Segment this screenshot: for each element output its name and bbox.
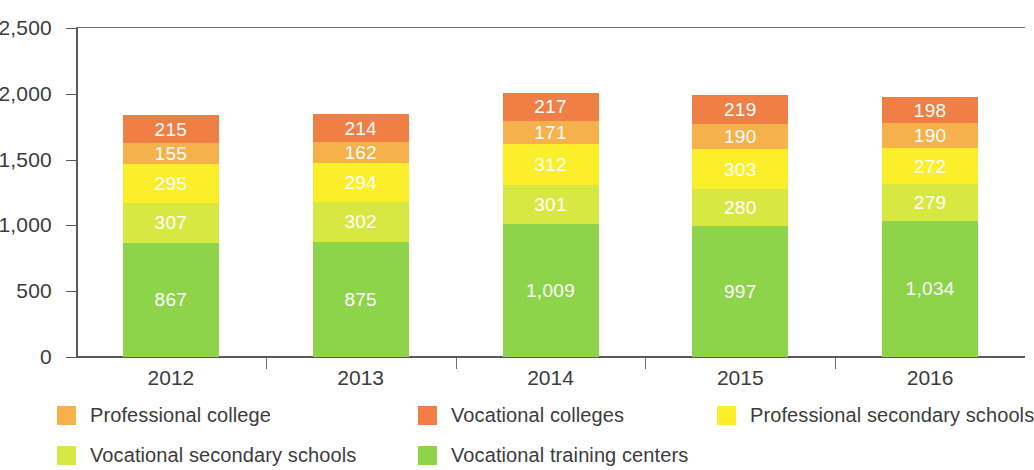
chart-legend: Professional collegeVocational collegesP… xyxy=(0,398,1025,470)
bar-group: 219190303280997 xyxy=(692,28,788,357)
y-axis-tick-mark xyxy=(66,357,76,358)
x-axis-label: 2016 xyxy=(907,366,954,390)
legend-color-swatch xyxy=(418,446,437,465)
legend-label: Professional college xyxy=(90,404,271,427)
bar-stack: 214162294302875 xyxy=(313,114,409,357)
legend-color-swatch xyxy=(57,406,76,425)
x-axis-tick-mark xyxy=(835,358,836,369)
y-axis-tick-mark xyxy=(66,291,76,292)
bar-segment[interactable]: 272 xyxy=(882,148,978,184)
legend-item[interactable]: Professional college xyxy=(57,404,271,427)
x-axis-tick-mark xyxy=(266,358,267,369)
bar-segment[interactable]: 867 xyxy=(123,243,219,357)
x-axis-label: 2013 xyxy=(337,366,384,390)
x-axis-label: 2014 xyxy=(527,366,574,390)
bar-segment[interactable]: 295 xyxy=(123,164,219,203)
legend-label: Professional secondary schools xyxy=(750,404,1034,427)
bar-segment[interactable]: 997 xyxy=(692,226,788,357)
legend-color-swatch xyxy=(418,406,437,425)
bar-segment[interactable]: 215 xyxy=(123,115,219,143)
bar-segment[interactable]: 875 xyxy=(313,242,409,357)
bar-group: 214162294302875 xyxy=(313,28,409,357)
legend-color-swatch xyxy=(57,446,76,465)
bar-stack: 2171713123011,009 xyxy=(503,93,599,357)
legend-item[interactable]: Vocational colleges xyxy=(418,404,624,427)
bar-segment[interactable]: 198 xyxy=(882,97,978,123)
bar-segment[interactable]: 302 xyxy=(313,202,409,242)
legend-label: Vocational secondary schools xyxy=(90,444,356,467)
legend-label: Vocational colleges xyxy=(451,404,624,427)
y-axis-tick-label: 500 xyxy=(16,279,52,303)
bar-segment[interactable]: 190 xyxy=(692,124,788,149)
legend-label: Vocational training centers xyxy=(451,444,688,467)
bar-segment[interactable]: 219 xyxy=(692,95,788,124)
bar-stack: 1981902722791,034 xyxy=(882,97,978,357)
y-axis-tick-mark xyxy=(66,28,76,29)
bar-group: 2171713123011,009 xyxy=(503,28,599,357)
y-axis-tick-label: 2,500 xyxy=(0,16,52,40)
x-axis-tick-mark xyxy=(456,358,457,369)
bar-segment[interactable]: 279 xyxy=(882,184,978,221)
bar-segment[interactable]: 214 xyxy=(313,114,409,142)
bar-segment[interactable]: 162 xyxy=(313,142,409,163)
legend-color-swatch xyxy=(717,406,736,425)
y-axis-tick-mark xyxy=(66,160,76,161)
y-axis-tick-label: 1,500 xyxy=(0,148,52,172)
bar-segment[interactable]: 155 xyxy=(123,143,219,163)
bar-segment[interactable]: 171 xyxy=(503,121,599,144)
legend-item[interactable]: Vocational secondary schools xyxy=(57,444,356,467)
bar-group: 1981902722791,034 xyxy=(882,28,978,357)
bar-stack: 219190303280997 xyxy=(692,95,788,357)
bar-segment[interactable]: 1,034 xyxy=(882,221,978,357)
bar-segment[interactable]: 190 xyxy=(882,123,978,148)
bar-segment[interactable]: 294 xyxy=(313,163,409,202)
legend-item[interactable]: Vocational training centers xyxy=(418,444,688,467)
bar-segment[interactable]: 301 xyxy=(503,185,599,225)
x-axis-label: 2015 xyxy=(717,366,764,390)
bar-segment[interactable]: 1,009 xyxy=(503,224,599,357)
y-axis-tick-label: 2,000 xyxy=(0,82,52,106)
y-axis-tick-mark xyxy=(66,225,76,226)
bar-segment[interactable]: 280 xyxy=(692,189,788,226)
plot-area: 2151552953078672141622943028752171713123… xyxy=(76,28,1025,357)
x-axis-tick-mark xyxy=(645,358,646,369)
bar-segment[interactable]: 303 xyxy=(692,149,788,189)
bar-segment[interactable]: 217 xyxy=(503,93,599,122)
legend-item[interactable]: Professional secondary schools xyxy=(717,404,1034,427)
bar-segment[interactable]: 312 xyxy=(503,144,599,185)
bar-segment[interactable]: 307 xyxy=(123,203,219,243)
x-axis-label: 2012 xyxy=(148,366,195,390)
bar-group: 215155295307867 xyxy=(123,28,219,357)
bar-stack: 215155295307867 xyxy=(123,115,219,357)
y-axis-tick-label: 0 xyxy=(40,345,52,369)
y-axis-tick-label: 1,000 xyxy=(0,213,52,237)
y-axis-tick-mark xyxy=(66,94,76,95)
